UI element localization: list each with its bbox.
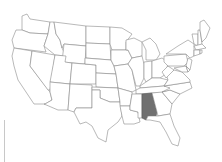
state-florida — [146, 114, 180, 146]
us-map — [0, 0, 222, 162]
state-maine — [200, 20, 210, 42]
state-wyoming — [62, 44, 86, 64]
us-states-svg — [0, 0, 222, 162]
state-washington — [22, 14, 50, 34]
state-rhode-island — [200, 50, 202, 54]
state-michigan — [142, 38, 160, 60]
state-north-dakota — [86, 26, 110, 44]
state-colorado — [70, 63, 96, 84]
state-south-dakota — [86, 43, 111, 60]
state-kansas — [96, 73, 118, 88]
state-connecticut — [194, 50, 200, 56]
state-pennsylvania — [164, 54, 188, 66]
